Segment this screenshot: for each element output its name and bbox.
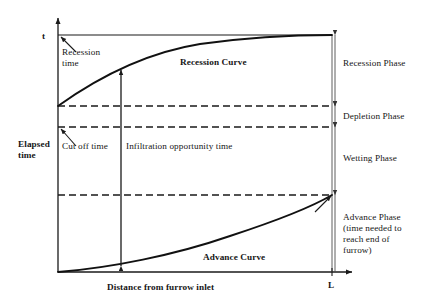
recession-phase-label: Recession Phase — [343, 58, 405, 69]
x-axis-label: Distance from furrow inlet — [107, 282, 214, 293]
recession-curve-label: Recession Curve — [180, 57, 247, 68]
depletion-phase-label: Depletion Phase — [343, 111, 404, 122]
recession-time-annotation-line1: Recession — [62, 47, 100, 58]
advance-end-leader — [315, 196, 331, 212]
recession-curve-path — [58, 35, 332, 106]
advance-phase-label: Advance Phase — [343, 212, 401, 223]
recession-time-annotation-line2: time — [62, 58, 79, 69]
advance-phase-note-line1: (time needed to — [343, 223, 402, 234]
y-axis-label-line1: Elapsed — [18, 139, 50, 150]
wetting-phase-label: Wetting Phase — [343, 153, 397, 164]
infiltration-opportunity-time-annotation: Infiltration opportunity time — [126, 141, 233, 152]
advance-phase-note-line2: reach end of — [343, 234, 390, 245]
y-axis-label-line2: time — [18, 150, 36, 161]
x-end-tick-label-L: L — [328, 280, 334, 291]
figure-canvas: t Recession time Recession Curve Elapsed… — [0, 0, 423, 302]
y-axis-symbol-t: t — [42, 31, 45, 42]
cut-off-time-annotation: Cut off time — [62, 141, 108, 152]
advance-curve-label: Advance Curve — [203, 252, 265, 263]
advance-phase-note-line3: furrow) — [343, 245, 372, 256]
advance-curve-path — [58, 195, 332, 272]
